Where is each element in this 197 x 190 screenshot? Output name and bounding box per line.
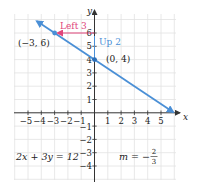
left-3-label: Left 3 <box>60 21 87 31</box>
slope-numerator: 2 <box>152 148 156 156</box>
x-tick-label: −4 <box>33 116 46 126</box>
x-tick-label: −2 <box>60 116 73 126</box>
x-tick-label: 2 <box>118 116 123 126</box>
slope-denominator: 3 <box>152 158 156 166</box>
graph-figure: −5 −4 −3 −2 −1 1 2 3 4 5 x y 6 5 4 3 2 1… <box>0 0 197 190</box>
y-tick-label: −2 <box>79 135 92 145</box>
x-tick-label: 5 <box>158 116 163 126</box>
coordinate-plane: −5 −4 −3 −2 −1 1 2 3 4 5 x y 6 5 4 3 2 1… <box>0 0 197 190</box>
y-tick-label: 2 <box>87 81 92 91</box>
y-tick-label: 3 <box>87 68 92 78</box>
point-0-4 <box>92 57 97 62</box>
x-tick-label: −3 <box>47 116 60 126</box>
up-2-label: Up 2 <box>99 37 121 47</box>
x-axis-label: x <box>183 112 188 122</box>
y-tick-label: −4 <box>79 161 92 171</box>
x-tick-label: 3 <box>132 116 137 126</box>
x-tick-label: 1 <box>105 116 110 126</box>
x-tick-label: 4 <box>145 116 150 126</box>
y-tick-label: −1 <box>79 122 92 132</box>
x-tick-label: −5 <box>20 116 33 126</box>
point-neg3-6 <box>52 31 57 36</box>
y-tick-label: 5 <box>87 41 92 51</box>
svg-text:m = −: m = − <box>119 151 150 162</box>
point-neg3-6-label: (−3, 6) <box>18 38 50 48</box>
y-tick-label: 1 <box>87 95 92 105</box>
point-0-4-label: (0, 4) <box>106 54 130 64</box>
line-2x-3y-12 <box>37 21 55 33</box>
slope-label: m = − 2 3 <box>119 148 158 166</box>
y-tick-label: −3 <box>79 148 92 158</box>
y-axis-label: y <box>86 6 93 16</box>
equation-label: 2x + 3y = 12 <box>15 151 79 162</box>
